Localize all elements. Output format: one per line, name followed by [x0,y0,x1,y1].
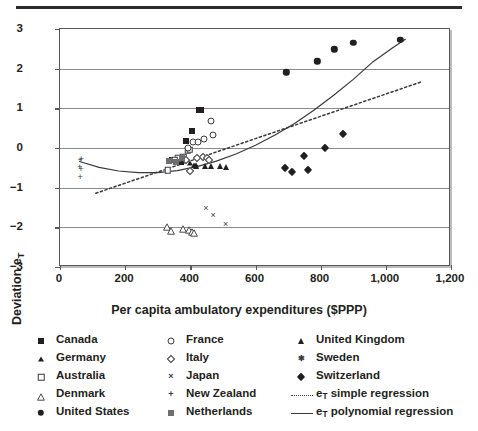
legend-label: New Zealand [186,387,256,399]
y-tick-label: −1 [0,181,23,193]
data-point-japan: × [207,211,219,220]
legend-symbol-solid-line-icon [290,404,312,422]
filled-circle-icon [38,410,44,416]
x-cross-icon: × [165,372,177,381]
data-point-united-kingdom [208,163,214,169]
open-square-icon [38,374,45,381]
legend-label: Australia [56,369,105,381]
grey-square-icon [168,410,174,416]
data-point-canada [189,128,195,134]
y-tick-label: 1 [0,101,23,113]
plus-icon: + [165,390,177,399]
legend-symbol-open-square-icon [30,368,52,386]
legend-label-rest: polynomial regression [327,405,453,417]
data-point-france [210,132,217,139]
legend-symbol-filled-square-icon [30,332,52,350]
filled-triangle-small-icon [38,357,44,362]
y-tick-label: −3 [0,260,23,272]
data-point-denmark [167,221,175,229]
x-tick-label: 1,000 [355,272,415,284]
data-point-france [207,118,214,125]
data-point-france [201,136,208,143]
filled-square-icon [38,338,44,344]
legend-symbol-filled-diamond-icon [290,368,312,386]
legend-symbol-open-triangle-icon [30,386,52,404]
legend-label: Sweden [316,351,359,363]
open-triangle-icon [37,391,45,399]
y-tick-label: 0 [0,141,23,153]
legend-label: eT polynomial regression [316,405,453,419]
legend-label: Netherlands [186,405,252,417]
y-tick-label: 3 [0,22,23,34]
data-point-netherlands [166,158,172,164]
legend-symbol-filled-triangle-small-icon [30,350,52,368]
legend-label: France [186,333,224,345]
filled-diamond-icon [297,373,306,382]
legend-label: Italy [186,351,209,363]
data-point-united-kingdom [223,164,229,170]
x-tick-mark [451,265,452,270]
open-diamond-icon [167,355,175,363]
asterisk-icon: ✱ [295,354,307,363]
x-tick-label: 200 [94,272,154,284]
legend-label: Japan [186,369,219,381]
x-tick-label: 1,200 [420,272,478,284]
data-point-denmark [190,223,198,231]
x-tick-label: 0 [29,272,89,284]
legend-symbol-plus-icon: + [160,386,182,404]
scatter-chart: Deviation eT −3−2−10123 02004006008001,0… [0,0,478,300]
legend-symbol-x-cross-icon: × [160,368,182,386]
legend-symbol-open-diamond-icon [160,350,182,368]
legend-label: Denmark [56,387,105,399]
x-tick-label: 800 [290,272,350,284]
legend-label: Switzerland [316,369,380,381]
regression-line-simple [96,82,422,193]
legend-label: Germany [56,351,106,363]
legend-symbol-dotted-line-icon [290,386,312,404]
data-point-japan: × [220,220,232,229]
regression-curves [60,29,451,267]
solid-line-icon [291,413,313,414]
plot-area: ×××+++++ [59,28,450,266]
figure-root: Deviation eT −3−2−10123 02004006008001,0… [0,0,478,431]
y-tick-label: 2 [0,62,23,74]
legend: CanadaGermanyAustraliaDenmarkUnited Stat… [0,332,478,427]
dotted-line-icon [291,395,313,396]
legend-label-rest: simple regression [327,387,429,399]
filled-triangle-icon [298,338,304,344]
legend-symbol-filled-triangle-icon [290,332,312,350]
data-point-canada [198,107,204,113]
x-axis-label: Per capita ambulatory expenditures ($PPP… [0,303,478,317]
open-circle-icon [168,338,175,345]
y-axis-label-subscript: T [16,253,26,259]
legend-symbol-filled-circle-icon [30,404,52,422]
regression-line-polynomial [80,39,406,172]
y-tick-label: −2 [0,220,23,232]
legend-symbol-asterisk-icon: ✱ [290,350,312,368]
data-point-australia [164,167,171,174]
legend-label: Canada [56,333,98,345]
x-tick-label: 400 [159,272,219,284]
legend-label: eT simple regression [316,387,429,401]
data-point-united-kingdom [193,163,199,169]
data-point-france [184,144,191,151]
legend-symbol-open-circle-icon [160,332,182,350]
data-point-new-zealand: + [74,173,86,182]
x-tick-label: 600 [225,272,285,284]
legend-symbol-grey-square-icon [160,404,182,422]
legend-label: United States [56,405,130,417]
data-point-netherlands [179,155,185,161]
legend-label: United Kingdom [316,333,405,345]
